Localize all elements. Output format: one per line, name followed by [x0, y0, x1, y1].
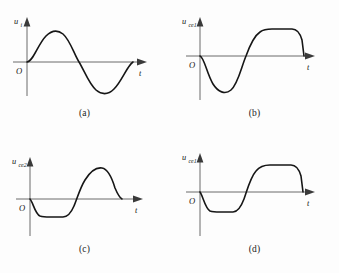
panel-c-waveform — [30, 168, 122, 217]
panel-d-x-axis-arrow — [305, 189, 315, 196]
panel-b-y-axis-sublabel: ce1 — [189, 22, 197, 28]
panel-b-plot: u ce1 O t — [170, 0, 339, 113]
panel-c-y-axis-sublabel: ce2 — [19, 162, 27, 168]
panel-a-origin-label: O — [16, 66, 22, 76]
panel-b-origin-label: O — [189, 60, 195, 70]
panel-b-y-axis-arrow — [197, 17, 204, 27]
panel-a-y-axis-arrow — [24, 17, 31, 27]
panel-a-x-axis-arrow — [137, 59, 147, 66]
panel-d-plot: u ce1 O t — [170, 136, 339, 249]
panel-c-caption: (c) — [0, 244, 169, 254]
panel-c-plot: u ce2 O t — [0, 136, 169, 249]
panel-c-y-axis-arrow — [27, 157, 34, 167]
panel-b-caption: (b) — [170, 108, 339, 118]
panel-d-x-axis-label: t — [307, 199, 310, 208]
panel-d-y-axis-label: u — [182, 153, 186, 162]
panel-b-waveform — [200, 29, 304, 92]
panel-d-caption: (d) — [170, 244, 339, 254]
panel-d-waveform — [200, 165, 303, 212]
panel-c-origin-label: O — [19, 203, 25, 213]
panel-b-y-axis-label: u — [182, 17, 186, 26]
panel-c-x-axis-label: t — [135, 206, 138, 215]
waveform-figure: u i O t (a) u ce1 O t (b) — [0, 0, 339, 273]
panel-a-y-axis-label: u — [14, 17, 18, 26]
panel-a-y-axis-sublabel: i — [21, 22, 23, 28]
panel-c-x-axis-arrow — [133, 196, 143, 203]
panel-b: u ce1 O t (b) — [170, 0, 339, 136]
panel-d-origin-label: O — [189, 196, 195, 206]
panel-a-plot: u i O t — [0, 0, 169, 113]
panel-b-x-axis-arrow — [305, 53, 315, 60]
panel-a-caption: (a) — [0, 108, 169, 118]
panel-c: u ce2 O t (c) — [0, 136, 169, 272]
panel-a: u i O t (a) — [0, 0, 169, 136]
panel-d: u ce1 O t (d) — [170, 136, 339, 272]
panel-d-y-axis-arrow — [197, 153, 204, 163]
panel-d-y-axis-sublabel: ce1 — [189, 158, 197, 164]
panel-a-x-axis-label: t — [139, 69, 142, 78]
panel-b-x-axis-label: t — [307, 63, 310, 72]
panel-c-y-axis-label: u — [12, 157, 16, 166]
